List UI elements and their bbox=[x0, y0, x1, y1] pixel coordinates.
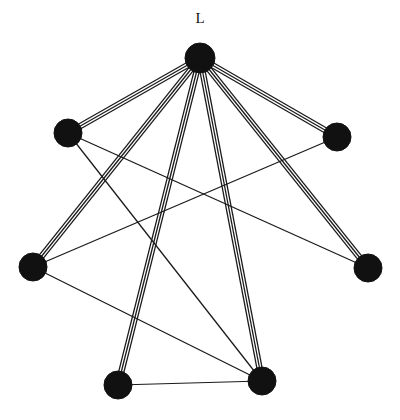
edge-left-bottom-right-line bbox=[33, 267, 262, 381]
upper-right-node[interactable] bbox=[323, 123, 351, 151]
graph-diagram: L bbox=[0, 0, 400, 420]
bottom-right-node[interactable] bbox=[248, 367, 276, 395]
edges-layer bbox=[31, 56, 370, 386]
edge-hub-right-line bbox=[202, 56, 370, 266]
edge-hub-right-line bbox=[200, 58, 368, 268]
hub-node-label: L bbox=[195, 10, 204, 26]
left-node[interactable] bbox=[19, 253, 47, 281]
edge-hub-left-line bbox=[33, 58, 200, 267]
edge-hub-bottom-left-line bbox=[115, 57, 197, 384]
labels-layer: L bbox=[195, 10, 204, 26]
edge-hub-upper-right-line bbox=[199, 60, 336, 139]
edge-upper-right-left bbox=[33, 137, 337, 267]
edge-hub-bottom-left-line bbox=[121, 59, 203, 386]
edge-hub-upper-right bbox=[199, 56, 339, 140]
edge-hub-bottom-left bbox=[115, 57, 202, 385]
graph-canvas: L bbox=[0, 0, 400, 420]
edge-hub-upper-left-line bbox=[68, 58, 200, 133]
edge-upper-left-bottom-right bbox=[68, 133, 262, 381]
edge-hub-bottom-right bbox=[197, 58, 264, 382]
edge-hub-bottom-left-line bbox=[118, 58, 200, 385]
edge-hub-upper-left-line bbox=[67, 56, 199, 131]
edge-hub-bottom-right-line bbox=[197, 58, 259, 381]
hub-node[interactable] bbox=[185, 43, 215, 73]
edge-hub-upper-right-line bbox=[201, 56, 338, 135]
edge-hub-right bbox=[198, 56, 370, 269]
edge-hub-left-line bbox=[35, 60, 202, 269]
edge-bottom-left-bottom-right bbox=[118, 381, 262, 385]
edge-hub-upper-right-line bbox=[200, 58, 337, 137]
bottom-left-node[interactable] bbox=[104, 371, 132, 399]
edge-hub-left-line bbox=[31, 56, 198, 265]
edge-bottom-left-bottom-right-line bbox=[118, 381, 262, 385]
edge-upper-left-bottom-right-line bbox=[68, 133, 262, 381]
edge-upper-right-left-line bbox=[33, 137, 337, 267]
edge-left-bottom-right bbox=[33, 267, 262, 381]
edge-hub-upper-left-line bbox=[69, 60, 201, 135]
right-node[interactable] bbox=[354, 254, 382, 282]
edge-hub-bottom-right-line bbox=[203, 58, 265, 381]
upper-left-node[interactable] bbox=[54, 119, 82, 147]
edge-hub-bottom-right-line bbox=[200, 58, 262, 381]
